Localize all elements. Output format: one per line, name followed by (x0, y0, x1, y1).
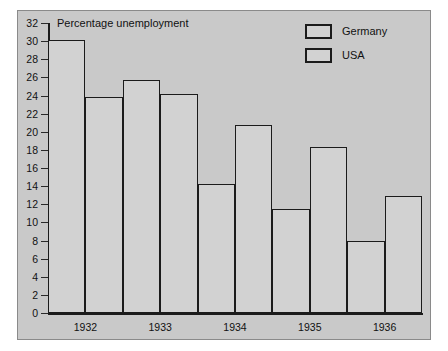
y-axis-tick-label: 14 (4, 181, 38, 192)
y-axis-tick (41, 259, 48, 260)
x-axis-label-1934: 1934 (198, 322, 273, 333)
y-axis-tick (41, 150, 48, 151)
bar-germany-1936 (347, 241, 384, 313)
y-axis-labels: 02468101214161820222426283032 (0, 0, 38, 351)
bar-germany-1935 (272, 209, 309, 313)
y-axis-tick-label: 20 (4, 127, 38, 138)
chart-legend: Germany USA (305, 22, 415, 70)
x-axis-label-1932: 1932 (48, 322, 123, 333)
y-axis-tick-label: 8 (4, 236, 38, 247)
y-axis-tick-label: 24 (4, 91, 38, 102)
bar-usa-1934 (235, 125, 272, 314)
y-axis-tick-label: 10 (4, 217, 38, 228)
y-axis-tick-label: 12 (4, 199, 38, 210)
bar-germany-1932 (48, 40, 85, 313)
chart-figure: 02468101214161820222426283032 Percentage… (0, 0, 448, 351)
y-axis-tick (41, 277, 48, 278)
legend-label-usa: USA (342, 49, 365, 61)
y-axis-tick (41, 222, 48, 223)
y-axis-tick (41, 241, 48, 242)
bar-usa-1933 (160, 94, 197, 313)
y-axis-tick-label: 18 (4, 145, 38, 156)
bar-usa-1936 (385, 196, 422, 313)
y-axis-tick-label: 4 (4, 272, 38, 283)
y-axis-tick-label: 22 (4, 109, 38, 120)
x-axis-label-1935: 1935 (272, 322, 347, 333)
y-axis-tick (41, 77, 48, 78)
y-axis-tick-label: 30 (4, 36, 38, 47)
y-axis-tick (41, 132, 48, 133)
y-axis-tick (41, 313, 48, 314)
y-axis-tick-label: 16 (4, 163, 38, 174)
legend-swatch-usa (305, 48, 332, 63)
bar-usa-1935 (310, 147, 347, 313)
y-axis-tick (41, 295, 48, 296)
y-axis-tick-label: 2 (4, 290, 38, 301)
y-axis-tick (41, 96, 48, 97)
y-axis-tick (41, 204, 48, 205)
bar-germany-1933 (123, 80, 160, 313)
y-axis-tick (41, 114, 48, 115)
y-axis-tick-label: 26 (4, 72, 38, 83)
x-axis-line (48, 313, 423, 315)
legend-swatch-germany (305, 24, 332, 39)
y-axis-tick-label: 0 (4, 308, 38, 319)
bar-germany-1934 (198, 184, 235, 313)
x-axis-label-1933: 1933 (123, 322, 198, 333)
y-axis-tick-label: 28 (4, 54, 38, 65)
legend-label-germany: Germany (342, 25, 387, 37)
legend-item-usa: USA (305, 46, 415, 70)
chart-title: Percentage unemployment (57, 17, 188, 29)
y-axis-tick (41, 41, 48, 42)
y-axis-tick (41, 59, 48, 60)
y-axis-tick (41, 186, 48, 187)
x-axis-label-1936: 1936 (347, 322, 422, 333)
y-axis-tick (41, 168, 48, 169)
bar-usa-1932 (85, 97, 122, 313)
legend-item-germany: Germany (305, 22, 415, 46)
y-axis-tick (41, 23, 48, 24)
y-axis-tick-label: 6 (4, 254, 38, 265)
y-axis-tick-label: 32 (4, 18, 38, 29)
